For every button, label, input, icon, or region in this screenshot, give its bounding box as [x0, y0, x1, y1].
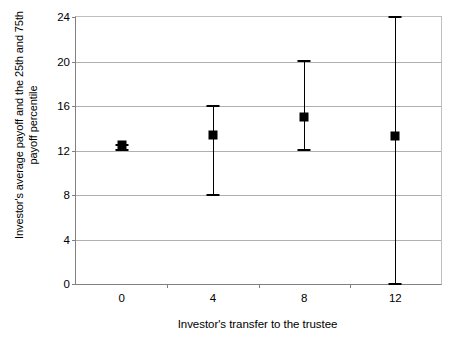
x-axis-tick — [350, 284, 351, 288]
y-axis-tick — [72, 284, 76, 285]
error-bar-line — [213, 105, 214, 194]
y-axis-title-line-2: payoff percentile — [27, 0, 41, 270]
y-axis-tick-label: 4 — [40, 234, 70, 246]
y-axis-tick — [72, 106, 76, 107]
chart-container: Investor's average payoff and the 25th a… — [0, 0, 453, 344]
error-bar-cap-lower — [389, 283, 402, 285]
error-bar-line — [304, 60, 305, 149]
error-bar-cap-upper — [389, 16, 402, 18]
data-point-marker — [117, 140, 126, 149]
x-axis-tick-label: 8 — [301, 292, 307, 304]
error-bar-cap-lower — [206, 194, 219, 196]
x-axis-tick — [259, 284, 260, 288]
x-axis-tick-label: 0 — [118, 292, 124, 304]
x-axis-tick — [167, 284, 168, 288]
y-axis-tick-label: 16 — [40, 100, 70, 112]
y-axis-tick-label: 0 — [40, 278, 70, 290]
error-bar-cap-lower — [115, 149, 128, 151]
y-axis-tick-label: 12 — [40, 145, 70, 157]
gridline — [76, 62, 441, 63]
y-axis-tick-label: 8 — [40, 189, 70, 201]
gridline — [76, 106, 441, 107]
y-axis-tick — [72, 151, 76, 152]
y-axis-title-line-1: Investor's average payoff and the 25th a… — [13, 0, 27, 270]
y-axis-tick-label: 24 — [40, 11, 70, 23]
gridline — [76, 151, 441, 152]
gridline — [76, 195, 441, 196]
gridline — [76, 240, 441, 241]
error-bar-line — [395, 16, 396, 283]
data-point-marker — [300, 113, 309, 122]
data-point-marker — [391, 132, 400, 141]
error-bar-cap-upper — [206, 105, 219, 107]
y-axis-tick — [72, 195, 76, 196]
data-point-marker — [208, 130, 217, 139]
y-axis-tick — [72, 62, 76, 63]
x-axis-tick-label: 4 — [210, 292, 216, 304]
x-axis-title: Investor's transfer to the trustee — [75, 318, 440, 330]
plot-area: 04812162024 04812 — [75, 16, 442, 285]
y-axis-tick — [72, 17, 76, 18]
page-edge-artifact — [0, 337, 453, 344]
x-axis-tick-label: 12 — [389, 292, 402, 304]
y-axis-title: Investor's average payoff and the 25th a… — [13, 0, 57, 270]
error-bar-cap-lower — [298, 149, 311, 151]
error-bar-cap-upper — [298, 60, 311, 62]
y-axis-tick — [72, 240, 76, 241]
y-axis-tick-label: 20 — [40, 56, 70, 68]
